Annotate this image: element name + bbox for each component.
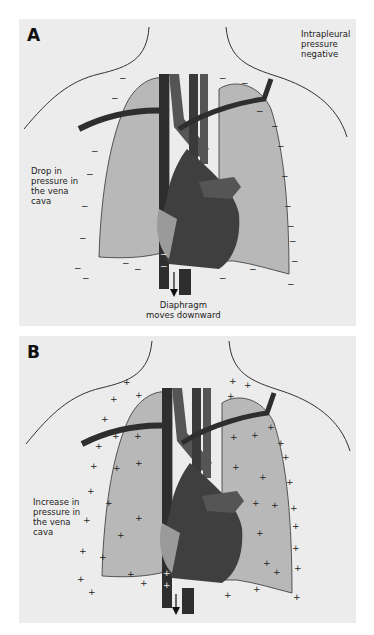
svg-text:+: +	[77, 574, 85, 584]
svg-text:−: −	[249, 264, 257, 274]
svg-text:+: +	[163, 568, 171, 578]
svg-text:+: +	[290, 503, 298, 513]
svg-text:+: +	[117, 530, 125, 540]
panel-a-inspiration: −−− −−− −−− −− −−− −−− −−− −−− − −− A In…	[19, 19, 356, 326]
svg-text:+: +	[127, 569, 135, 579]
svg-text:+: +	[110, 394, 118, 404]
svg-text:−: −	[287, 279, 295, 289]
label-vena-cava-drop: Drop in pressure in the vena cava	[31, 166, 78, 206]
svg-text:+: +	[256, 528, 264, 538]
svg-text:+: +	[101, 414, 109, 424]
svg-text:+: +	[282, 452, 290, 462]
svg-text:+: +	[135, 390, 143, 400]
svg-text:−: −	[122, 258, 130, 268]
svg-text:+: +	[232, 462, 240, 472]
svg-text:+: +	[273, 567, 281, 577]
svg-text:−: −	[79, 233, 87, 243]
label-vena-cava-increase: Increase in pressure in the vena cava	[33, 497, 80, 537]
svg-text:+: +	[294, 563, 302, 573]
svg-text:−: −	[160, 261, 168, 271]
svg-text:−: −	[86, 169, 94, 179]
svg-text:+: +	[87, 486, 95, 496]
svg-text:+: +	[292, 543, 300, 553]
svg-text:+: +	[253, 584, 261, 594]
svg-text:+: +	[112, 431, 120, 441]
svg-text:−: −	[281, 171, 289, 181]
svg-text:+: +	[113, 463, 121, 473]
svg-text:−: −	[277, 141, 285, 151]
svg-text:+: +	[252, 498, 260, 508]
svg-text:−: −	[284, 201, 292, 211]
svg-text:−: −	[287, 221, 295, 231]
svg-text:−: −	[81, 201, 89, 211]
label-intrapleural-pressure: Intrapleural pressure negative	[301, 29, 350, 59]
svg-text:+: +	[251, 430, 259, 440]
down-arrow-icon	[170, 289, 178, 297]
svg-text:−: −	[74, 263, 82, 273]
svg-text:+: +	[229, 376, 237, 386]
svg-text:−: −	[111, 93, 119, 103]
svg-text:+: +	[135, 458, 143, 468]
down-arrow-icon	[172, 607, 180, 615]
panel-letter-a: A	[27, 25, 40, 45]
svg-text:+: +	[292, 521, 300, 531]
inferior-vena-cava	[179, 269, 191, 295]
svg-text:+: +	[135, 513, 143, 523]
label-diaphragm: Diaphragm moves downward	[146, 300, 221, 320]
svg-text:−: −	[91, 146, 99, 156]
svg-text:+: +	[259, 472, 267, 482]
panel-letter-b: B	[27, 342, 40, 362]
svg-text:+: +	[286, 477, 294, 487]
svg-text:+: +	[140, 578, 148, 588]
svg-text:−: −	[241, 78, 249, 88]
svg-text:−: −	[291, 256, 299, 266]
svg-text:+: +	[224, 590, 232, 600]
svg-text:+: +	[123, 377, 131, 387]
svg-text:−: −	[219, 273, 227, 283]
svg-text:+: +	[244, 380, 252, 390]
svg-text:+: +	[105, 498, 113, 508]
svg-text:−: −	[119, 73, 127, 83]
svg-text:+: +	[227, 391, 235, 401]
svg-text:+: +	[90, 461, 98, 471]
svg-text:+: +	[134, 431, 142, 441]
svg-text:+: +	[277, 438, 285, 448]
svg-text:+: +	[263, 558, 271, 568]
svg-text:−: −	[82, 273, 90, 283]
svg-text:+: +	[88, 587, 96, 597]
svg-text:+: +	[163, 580, 171, 590]
panel-b-expiration: +++ +++ +++ +++ +++ +++ +++ +++ +++ +++ …	[19, 336, 356, 623]
svg-text:−: −	[134, 264, 142, 274]
svg-text:+: +	[267, 422, 275, 432]
svg-text:+: +	[271, 500, 279, 510]
svg-text:+: +	[83, 515, 91, 525]
svg-text:−: −	[271, 121, 279, 131]
svg-text:+: +	[99, 552, 107, 562]
svg-text:+: +	[95, 441, 103, 451]
svg-text:−: −	[256, 106, 264, 116]
svg-text:+: +	[79, 546, 87, 556]
svg-text:+: +	[230, 432, 238, 442]
svg-text:−: −	[101, 114, 109, 124]
svg-text:−: −	[289, 236, 297, 246]
svg-text:+: +	[293, 592, 301, 602]
svg-text:−: −	[160, 249, 168, 259]
thorax-diagram-b: +++ +++ +++ +++ +++ +++ +++ +++ +++ +++ …	[19, 336, 356, 623]
inferior-vena-cava	[182, 588, 194, 614]
svg-text:−: −	[219, 73, 227, 83]
